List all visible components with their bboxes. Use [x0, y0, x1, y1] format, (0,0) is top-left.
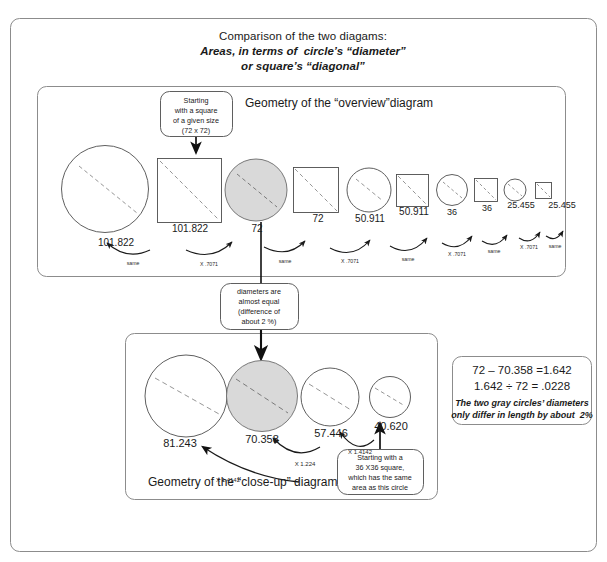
- overview-arrow-3: [264, 241, 305, 252]
- closeup-panel-title: Geometry of the “close-up” diagram: [148, 476, 337, 490]
- figure-canvas: Comparison of the two diagams: Areas, in…: [0, 0, 607, 562]
- overview-value-square-72: 72: [293, 213, 343, 225]
- overview-shape-circle-101822: [62, 146, 149, 233]
- closeup-shape-circle-57446: [301, 368, 359, 426]
- closeup-shape-circle-70358-gray: [227, 361, 298, 432]
- overview-start-callout-line-1: Starting: [161, 96, 231, 106]
- overview-diag-7: [443, 182, 462, 198]
- overview-arrow-label-7: same: [474, 249, 514, 255]
- overview-value-circle-101822: 101.822: [81, 237, 151, 249]
- overview-value-circle-72: 72: [232, 223, 282, 235]
- overview-diag-1: [79, 166, 137, 213]
- figure-title-line-3: or square’s “diagonal”: [93, 60, 513, 73]
- overview-shape-circle-25455: [504, 179, 526, 201]
- closeup-diag-1: [155, 378, 219, 414]
- calc-box-line-1: 72 – 70.358 =1.642: [452, 364, 592, 377]
- overview-arrow-8: [519, 232, 540, 241]
- overview-arrow-7: [482, 235, 507, 244]
- middle-callout-line-3: (difference of: [221, 307, 297, 317]
- figure-title-line-1: Comparison of the two diagams:: [93, 30, 513, 43]
- overview-arrow-label-1: same: [113, 261, 153, 267]
- overview-start-callout-line-3: of a given size: [161, 116, 231, 126]
- closeup-value-circle-81243: 81.243: [145, 437, 215, 450]
- middle-callout-line-2: almost equal: [221, 297, 297, 307]
- overview-arrow-6: [442, 236, 472, 247]
- middle-callout-line-4: about 2 %): [221, 317, 297, 327]
- overview-start-callout-line-4: (72 x 72): [161, 126, 231, 136]
- closeup-start-callout-line-3: which has the same: [338, 473, 422, 483]
- overview-start-callout-line-2: with a square: [161, 106, 231, 116]
- middle-callout-line-1: diameters are: [221, 287, 297, 297]
- overview-arrow-label-2: X .7071: [189, 262, 229, 268]
- overview-arrow-label-5: same: [388, 257, 428, 263]
- overview-diag-8: [476, 180, 496, 200]
- overview-diag-2: [160, 161, 219, 220]
- overview-arrow-4: [330, 240, 370, 253]
- overview-diag-6: [398, 176, 427, 205]
- overview-arrow-label-9: same: [535, 244, 575, 250]
- closeup-diag-3: [309, 384, 351, 410]
- overview-arrow-2: [186, 242, 232, 255]
- overview-arrow-5: [390, 238, 427, 251]
- overview-panel-title: Geometry of the “overview”diagram: [245, 97, 433, 111]
- overview-diag-9: [508, 184, 522, 196]
- closeup-value-circle-40620: 40.620: [356, 420, 426, 433]
- overview-value-square-101822: 101.822: [155, 223, 225, 235]
- figure-title-line-2: Areas, in terms of circle’s “diameter”: [93, 45, 513, 58]
- overview-arrow-label-6: X .7071: [437, 252, 477, 258]
- closeup-value-circle-70358: 70.358: [227, 433, 297, 446]
- overview-arrow-label-3: same: [265, 259, 305, 265]
- closeup-arrow-label-2: X 1.224: [282, 461, 328, 468]
- closeup-start-callout-line-4: area as this circle: [338, 483, 422, 493]
- overview-diag-5: [356, 179, 383, 201]
- closeup-diag-4: [375, 388, 405, 406]
- calc-box-line-2: 1.642 ÷ 72 = .0228: [452, 380, 592, 393]
- overview-diag-10: [537, 184, 550, 197]
- overview-value-square-25455: 25.455: [538, 200, 586, 210]
- calc-box-note-line-2: only differ in length by about 2%: [449, 409, 595, 421]
- closeup-shape-circle-81243: [145, 355, 227, 437]
- overview-arrow-label-4: X .7071: [330, 259, 370, 265]
- closeup-start-callout-line-1: Starting with a: [338, 453, 422, 463]
- overview-arrow-9: [546, 231, 563, 239]
- overview-value-circle-36: 36: [432, 207, 472, 217]
- closeup-start-callout-line-2: 36 X36 square,: [338, 463, 422, 473]
- overview-diag-4: [295, 169, 337, 211]
- calc-box-note-line-1: The two gray circles’ diameters: [451, 397, 593, 409]
